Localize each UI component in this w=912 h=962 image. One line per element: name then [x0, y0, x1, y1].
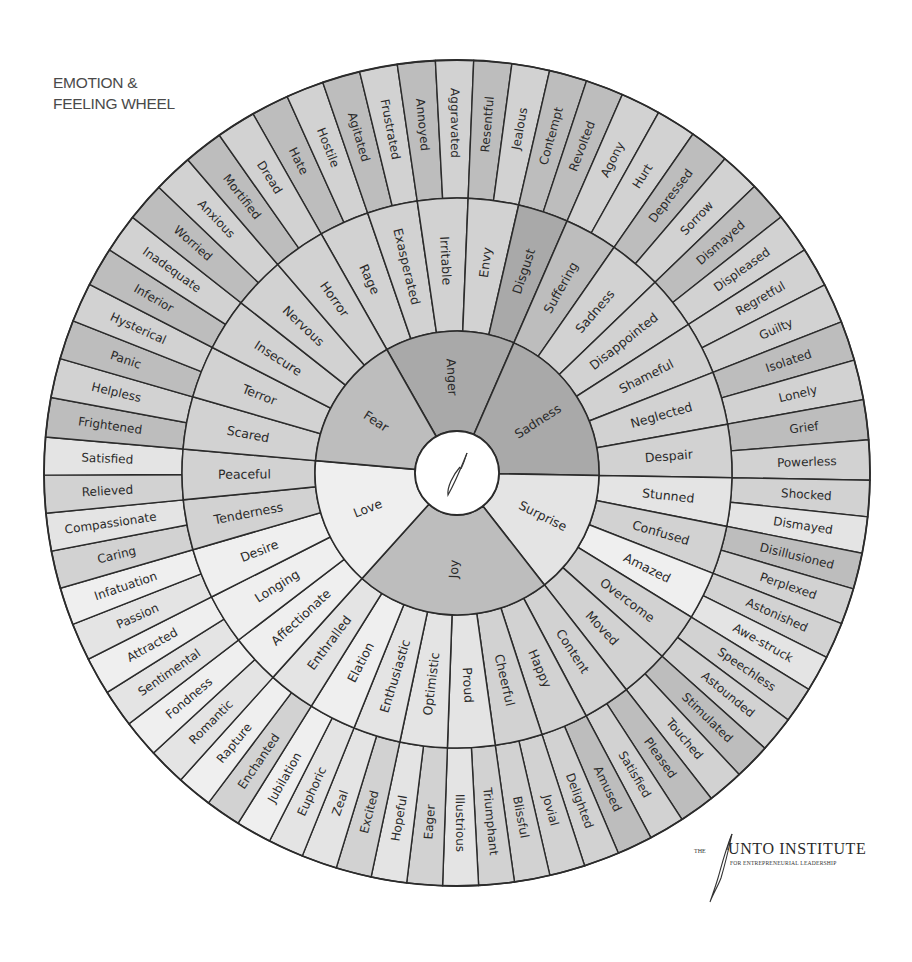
outer-label-satisfied: Satisfied [81, 451, 133, 467]
center-hub [415, 431, 499, 515]
logo-prefix: THE [694, 848, 706, 854]
core-label-anger: Anger [444, 358, 461, 397]
middle-label-peaceful: Peaceful [218, 466, 271, 481]
middle-label-irritable: Irritable [437, 236, 455, 286]
core-label-joy: Joy [446, 559, 462, 580]
outer-label-relieved: Relieved [81, 483, 133, 500]
emotion-wheel: HateHostileAgitatedFrustratedAnnoyedAggr… [0, 0, 912, 962]
hub-circle [415, 431, 499, 515]
middle-label-proud: Proud [460, 667, 477, 703]
junto-institute-logo: THE UNTO INSTITUTE FOR ENTREPRENEURIAL L… [688, 838, 888, 918]
outer-emotion-aggravated[interactable]: Aggravated [435, 60, 473, 198]
outer-label-aggravated: Aggravated [448, 88, 462, 158]
outer-label-powerless: Powerless [777, 454, 837, 470]
logo-name: UNTO INSTITUTE [728, 840, 866, 858]
logo-tagline: FOR ENTREPRENEURIAL LEADERSHIP [730, 860, 836, 866]
outer-label-illustrious: Illustrious [453, 794, 468, 852]
outer-label-eager: Eager [421, 804, 438, 840]
